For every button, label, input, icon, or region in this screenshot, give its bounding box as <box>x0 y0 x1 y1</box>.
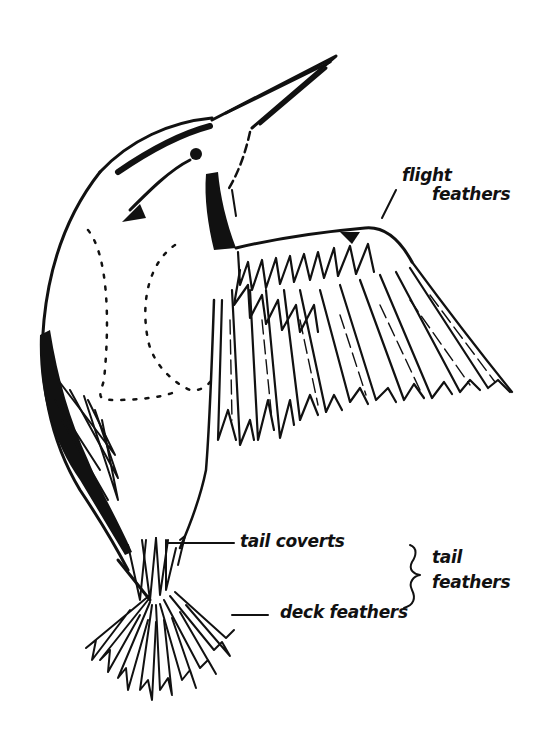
label-deck-feathers: deck feathers <box>280 603 408 622</box>
label-flight-feathers-line1: flight <box>402 166 510 185</box>
body <box>40 172 215 570</box>
eye-icon <box>190 148 202 160</box>
label-tail-coverts: tail coverts <box>240 532 345 551</box>
label-tail-feathers: tail feathers <box>432 548 510 591</box>
spread-wing <box>218 228 512 445</box>
beak <box>212 56 336 128</box>
leader-lines <box>168 190 420 615</box>
label-tail-feathers-line2: feathers <box>432 573 510 592</box>
head <box>100 118 250 250</box>
tail-feathers-brace <box>404 545 420 608</box>
bird-sketch <box>0 0 551 731</box>
tail-coverts <box>128 536 185 600</box>
label-flight-feathers-line2: feathers <box>432 185 510 204</box>
bird-anatomy-diagram: flight feathers tail coverts tail feathe… <box>0 0 551 731</box>
label-flight-feathers: flight feathers <box>402 166 510 203</box>
flight-feathers-leader <box>382 190 396 218</box>
label-tail-feathers-line1: tail <box>432 548 510 567</box>
